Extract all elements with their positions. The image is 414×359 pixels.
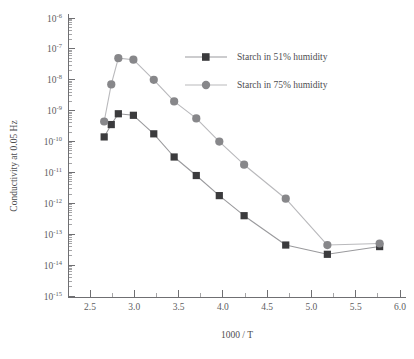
legend-marker-square bbox=[202, 53, 210, 61]
data-point-circle bbox=[100, 117, 108, 125]
y-tick-label: 10-14 bbox=[44, 259, 63, 271]
data-point-circle bbox=[114, 54, 122, 62]
data-point-square bbox=[171, 153, 178, 160]
data-point-square bbox=[282, 241, 289, 248]
data-point-circle bbox=[376, 239, 384, 247]
y-tick-label: 10-12 bbox=[44, 197, 62, 209]
data-point-square bbox=[241, 212, 248, 219]
y-axis-title: Conductivity at 0.05 Hz bbox=[9, 120, 19, 211]
y-tick-label: 10-10 bbox=[44, 135, 62, 147]
y-tick-label: 10-7 bbox=[47, 42, 63, 54]
data-point-square bbox=[108, 121, 115, 128]
conductivity-arrhenius-plot: 10-610-710-810-910-1010-1110-1210-1310-1… bbox=[0, 0, 414, 359]
legend-label-2: Starch in 75% humidity bbox=[237, 80, 328, 90]
y-tick-label: 10-6 bbox=[47, 12, 63, 24]
data-point-square bbox=[216, 192, 223, 199]
data-point-square bbox=[150, 130, 157, 137]
chart-figure: 10-610-710-810-910-1010-1110-1210-1310-1… bbox=[0, 0, 414, 359]
data-point-circle bbox=[240, 161, 248, 169]
data-point-circle bbox=[323, 241, 331, 249]
data-point-circle bbox=[192, 114, 200, 122]
legend-marker-circle bbox=[202, 81, 210, 89]
x-tick-label: 5.0 bbox=[305, 302, 317, 312]
data-point-square bbox=[193, 172, 200, 179]
data-point-square bbox=[130, 112, 137, 119]
x-tick-label: 2.5 bbox=[84, 302, 96, 312]
data-point-square bbox=[324, 251, 331, 258]
x-axis-ticks: 2.53.03.54.04.55.05.56.0 bbox=[84, 290, 406, 312]
y-tick-label: 10-9 bbox=[47, 104, 62, 116]
data-point-square bbox=[115, 110, 122, 117]
y-tick-label: 10-11 bbox=[44, 166, 62, 178]
data-point-square bbox=[101, 133, 108, 140]
x-tick-label: 3.5 bbox=[173, 302, 185, 312]
y-tick-label: 10-13 bbox=[44, 228, 62, 240]
x-tick-label: 3.0 bbox=[128, 302, 140, 312]
y-tick-label: 10-15 bbox=[44, 290, 62, 302]
data-point-circle bbox=[150, 76, 158, 84]
y-axis-ticks: 10-610-710-810-910-1010-1110-1210-1310-1… bbox=[44, 12, 75, 302]
data-point-circle bbox=[215, 137, 223, 145]
data-point-circle bbox=[107, 80, 115, 88]
data-point-circle bbox=[170, 97, 178, 105]
series-line bbox=[104, 114, 379, 255]
data-point-circle bbox=[129, 56, 137, 64]
chart-legend: Starch in 51% humidityStarch in 75% humi… bbox=[185, 52, 328, 90]
x-tick-label: 5.5 bbox=[350, 302, 362, 312]
series-1 bbox=[101, 110, 384, 258]
x-axis-title: 1000 / T bbox=[221, 330, 253, 340]
y-tick-label: 10-8 bbox=[47, 73, 62, 85]
x-tick-label: 6.0 bbox=[394, 302, 406, 312]
x-tick-label: 4.0 bbox=[217, 302, 229, 312]
x-tick-label: 4.5 bbox=[261, 302, 273, 312]
data-point-circle bbox=[282, 195, 290, 203]
legend-label-1: Starch in 51% humidity bbox=[237, 52, 328, 62]
